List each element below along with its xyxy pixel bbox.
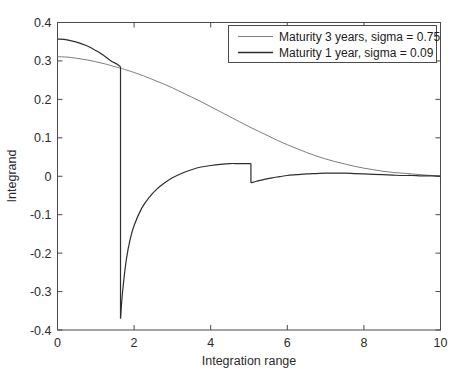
figure-canvas: 0246810 0.40.30.20.10-0.1-0.2-0.3-0.4 In… xyxy=(0,0,463,380)
x-tick-label: 4 xyxy=(207,336,214,350)
y-axis-label: Integrand xyxy=(5,150,19,203)
legend-label-0: Maturity 3 years, sigma = 0.75 xyxy=(279,30,440,44)
x-tick-label: 2 xyxy=(131,336,138,350)
y-tick-label: -0.2 xyxy=(30,247,52,261)
x-tick-label: 0 xyxy=(54,336,61,350)
y-tick-label: 0 xyxy=(45,170,52,184)
y-tick-label: 0.1 xyxy=(34,131,51,145)
x-tick-label: 6 xyxy=(284,336,291,350)
y-tick-label: 0.3 xyxy=(34,54,51,68)
y-tick-label: -0.4 xyxy=(30,324,52,338)
y-tick-label: -0.1 xyxy=(30,208,52,222)
y-tick-label: -0.3 xyxy=(30,285,52,299)
chart-plot: 0246810 0.40.30.20.10-0.1-0.2-0.3-0.4 In… xyxy=(0,0,463,380)
legend-label-1: Maturity 1 year, sigma = 0.09 xyxy=(279,46,434,60)
x-tick-label: 8 xyxy=(360,336,367,350)
chart-legend[interactable]: Maturity 3 years, sigma = 0.75 Maturity … xyxy=(229,26,441,63)
y-tick-label: 0.4 xyxy=(34,16,51,30)
x-axis-label: Integration range xyxy=(202,354,297,368)
x-tick-label: 10 xyxy=(434,336,448,350)
y-tick-label: 0.2 xyxy=(34,93,51,107)
